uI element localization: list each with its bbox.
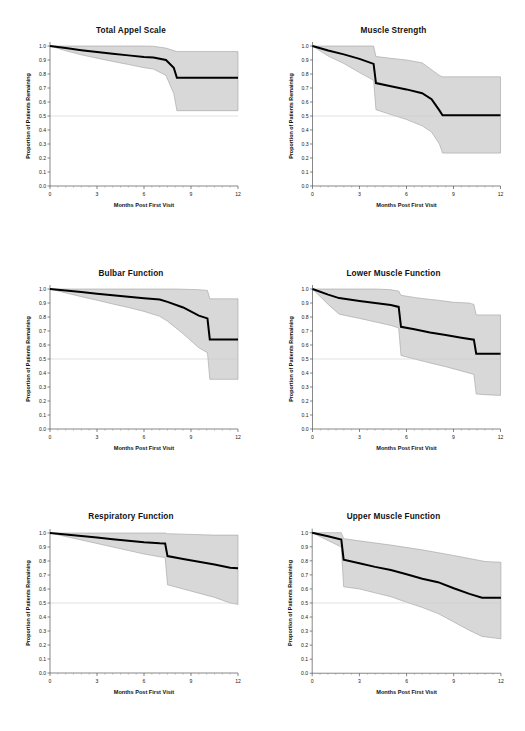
y-tick-label: 0.1 (301, 169, 308, 175)
confidence-band (313, 46, 501, 153)
x-tick-label: 9 (452, 434, 455, 440)
y-tick-label: 0.2 (39, 642, 46, 648)
y-tick-label: 0.5 (301, 356, 308, 362)
y-axis-label: Proportion of Patients Remaining (25, 560, 31, 646)
x-tick-label: 0 (311, 191, 314, 197)
x-tick-label: 9 (190, 191, 193, 197)
x-axis-label: Months Post First Visit (114, 202, 175, 208)
y-tick-label: 0.0 (39, 183, 46, 189)
x-tick-label: 12 (235, 678, 241, 684)
confidence-band (50, 533, 238, 604)
y-tick-label: 0.7 (301, 328, 308, 334)
plot-area: 0.00.10.20.30.40.50.60.70.80.91.0036912M… (0, 486, 262, 731)
km-survival-figure: Total Appel Scale0.00.10.20.30.40.50.60.… (0, 0, 525, 731)
x-tick-label: 6 (143, 434, 146, 440)
plot-area: 0.00.10.20.30.40.50.60.70.80.91.0036912M… (262, 486, 525, 731)
x-tick-label: 12 (498, 191, 504, 197)
y-axis-label: Proportion of Patients Remaining (25, 316, 31, 402)
x-tick-label: 3 (96, 434, 99, 440)
y-tick-label: 0.7 (39, 328, 46, 334)
x-axis-label: Months Post First Visit (376, 445, 437, 451)
y-tick-label: 0.0 (39, 670, 46, 676)
y-tick-label: 0.1 (39, 169, 46, 175)
y-tick-label: 0.6 (301, 586, 308, 592)
y-tick-label: 0.7 (301, 572, 308, 578)
x-tick-label: 0 (49, 191, 52, 197)
x-tick-label: 9 (452, 191, 455, 197)
y-tick-label: 0.3 (301, 141, 308, 147)
y-tick-label: 0.1 (39, 412, 46, 418)
x-tick-label: 6 (143, 191, 146, 197)
y-tick-label: 1.0 (301, 530, 308, 536)
y-tick-label: 0.2 (301, 642, 308, 648)
y-tick-label: 0.0 (39, 426, 46, 432)
y-tick-label: 0.9 (39, 300, 46, 306)
y-tick-label: 0.4 (39, 614, 46, 620)
y-tick-label: 0.5 (301, 600, 308, 606)
y-tick-label: 0.7 (301, 85, 308, 91)
y-tick-label: 0.5 (39, 600, 46, 606)
y-tick-label: 1.0 (301, 286, 308, 292)
y-tick-label: 0.1 (39, 656, 46, 662)
y-tick-label: 1.0 (39, 530, 46, 536)
y-tick-label: 0.2 (39, 398, 46, 404)
y-tick-label: 0.7 (39, 85, 46, 91)
y-tick-label: 0.3 (39, 141, 46, 147)
x-tick-label: 12 (235, 191, 241, 197)
y-tick-label: 0.2 (301, 398, 308, 404)
y-tick-label: 0.3 (301, 384, 308, 390)
y-tick-label: 0.4 (39, 127, 46, 133)
x-tick-label: 6 (405, 678, 408, 684)
x-tick-label: 9 (452, 678, 455, 684)
confidence-band (312, 533, 501, 639)
y-tick-label: 0.8 (39, 71, 46, 77)
x-tick-label: 3 (358, 191, 361, 197)
y-tick-label: 0.8 (301, 314, 308, 320)
y-tick-label: 0.2 (301, 155, 308, 161)
y-tick-label: 1.0 (301, 43, 308, 49)
confidence-band (313, 289, 501, 395)
y-tick-label: 0.3 (39, 628, 46, 634)
y-tick-label: 0.8 (39, 314, 46, 320)
x-tick-label: 12 (235, 434, 241, 440)
x-tick-label: 9 (190, 678, 193, 684)
y-tick-label: 0.3 (39, 384, 46, 390)
y-tick-label: 0.4 (301, 614, 308, 620)
y-tick-label: 0.4 (301, 127, 308, 133)
y-tick-label: 1.0 (39, 43, 46, 49)
y-tick-label: 0.9 (39, 57, 46, 63)
plot-area: 0.00.10.20.30.40.50.60.70.80.91.0036912M… (0, 243, 262, 486)
y-tick-label: 0.8 (301, 558, 308, 564)
y-tick-label: 0.6 (301, 99, 308, 105)
x-tick-label: 3 (96, 678, 99, 684)
plot-area: 0.00.10.20.30.40.50.60.70.80.91.0036912M… (262, 0, 525, 243)
x-tick-label: 9 (190, 434, 193, 440)
chart-panel: Total Appel Scale0.00.10.20.30.40.50.60.… (0, 0, 262, 243)
x-axis-label: Months Post First Visit (376, 202, 437, 208)
y-tick-label: 0.8 (301, 71, 308, 77)
y-tick-label: 0.5 (301, 113, 308, 119)
y-tick-label: 0.0 (301, 426, 308, 432)
y-tick-label: 0.6 (39, 99, 46, 105)
y-tick-label: 0.4 (301, 370, 308, 376)
y-tick-label: 0.6 (39, 586, 46, 592)
chart-panel: Lower Muscle Function0.00.10.20.30.40.50… (262, 243, 525, 486)
x-tick-label: 6 (405, 434, 408, 440)
y-tick-label: 0.9 (301, 544, 308, 550)
x-tick-label: 3 (96, 191, 99, 197)
y-tick-label: 0.1 (301, 412, 308, 418)
x-axis-label: Months Post First Visit (114, 445, 175, 451)
chart-panel: Muscle Strength0.00.10.20.30.40.50.60.70… (262, 0, 525, 243)
y-tick-label: 0.4 (39, 370, 46, 376)
plot-area: 0.00.10.20.30.40.50.60.70.80.91.0036912M… (262, 243, 525, 486)
x-tick-label: 12 (498, 434, 504, 440)
x-tick-label: 0 (49, 434, 52, 440)
x-tick-label: 3 (358, 678, 361, 684)
y-tick-label: 0.5 (39, 356, 46, 362)
y-tick-label: 0.0 (301, 670, 308, 676)
plot-area: 0.00.10.20.30.40.50.60.70.80.91.0036912M… (0, 0, 262, 243)
y-axis-label: Proportion of Patients Remaining (25, 73, 31, 159)
y-tick-label: 0.6 (39, 342, 46, 348)
y-axis-label: Proportion of Patients Remaining (287, 560, 293, 646)
x-tick-label: 6 (143, 678, 146, 684)
